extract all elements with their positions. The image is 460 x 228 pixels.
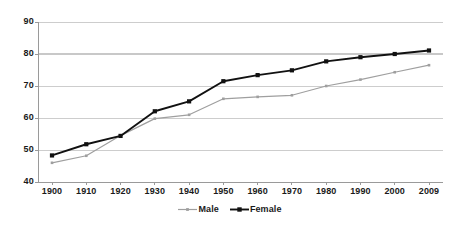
data-series-layer <box>50 48 431 164</box>
chart-legend: MaleFemale <box>0 205 460 214</box>
y-tick-label: 60 <box>8 113 34 122</box>
data-point-male-1900 <box>51 162 54 165</box>
data-point-female-2009 <box>427 48 431 52</box>
data-point-male-1930 <box>154 117 157 120</box>
data-point-female-1900 <box>50 153 54 157</box>
series-line-male <box>52 65 429 163</box>
data-point-male-2000 <box>393 71 396 74</box>
x-tick-label-2009: 2009 <box>409 186 449 197</box>
data-point-female-1920 <box>118 134 122 138</box>
line-chart: 405060708090 190019101920193019401950196… <box>0 0 460 228</box>
legend-label: Female <box>250 205 282 214</box>
data-point-male-1950 <box>222 98 225 101</box>
legend-entry-male[interactable]: Male <box>178 205 218 214</box>
data-point-female-1990 <box>358 55 362 59</box>
legend-marker-male-icon <box>178 205 197 214</box>
data-point-female-1940 <box>187 99 191 103</box>
legend-entry-female[interactable]: Female <box>230 205 282 214</box>
data-point-female-2000 <box>393 52 397 56</box>
gridlines <box>38 22 443 150</box>
x-axis-tick-labels: 1900191019201930194019501960197019801990… <box>0 186 460 202</box>
series-line-female <box>52 50 429 155</box>
legend-label: Male <box>198 205 218 214</box>
data-point-female-1980 <box>324 59 328 63</box>
data-point-male-1910 <box>85 154 88 157</box>
data-point-male-1960 <box>256 96 259 99</box>
data-point-male-1980 <box>325 85 328 88</box>
y-tick-label: 70 <box>8 81 34 90</box>
legend-marker-female-icon <box>230 205 249 214</box>
data-point-female-1950 <box>221 79 225 83</box>
y-tick-label: 40 <box>8 177 34 186</box>
axis-lines <box>35 22 443 185</box>
data-point-female-1910 <box>84 142 88 146</box>
y-tick-label: 80 <box>8 49 34 58</box>
y-tick-label: 50 <box>8 145 34 154</box>
data-point-male-1970 <box>291 94 294 97</box>
data-point-female-1970 <box>290 68 294 72</box>
y-tick-label: 90 <box>8 17 34 26</box>
data-point-male-1940 <box>188 114 191 117</box>
data-point-male-2009 <box>428 64 431 67</box>
data-point-male-1990 <box>359 78 362 81</box>
data-point-female-1930 <box>153 109 157 113</box>
data-point-female-1960 <box>256 73 260 77</box>
